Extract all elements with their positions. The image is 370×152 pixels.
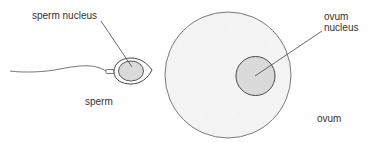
diagram-drawing (0, 0, 370, 152)
fertilization-diagram: sperm nucleus sperm ovum nucleus ovum (0, 0, 370, 152)
sperm-midpiece (106, 70, 114, 74)
ovum-nucleus-label-line1: ovum (324, 11, 348, 22)
sperm-label: sperm (85, 96, 113, 107)
ovum-label: ovum (317, 113, 341, 124)
sperm-tail (10, 66, 109, 72)
sperm-nucleus-label: sperm nucleus (32, 10, 97, 21)
ovum-nucleus-label-line2: nucleus (324, 22, 358, 33)
sperm-nucleus-leader (101, 21, 132, 67)
